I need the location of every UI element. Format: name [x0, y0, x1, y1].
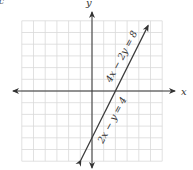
y-axis-label: y — [85, 0, 92, 8]
panel-label: c — [0, 0, 4, 6]
equation-line — [81, 25, 148, 160]
equation-label-upper: 4x − 2y = 8 — [103, 29, 140, 85]
graph: c x y 4x − 2y = 8 2x − y = 4 — [0, 0, 193, 170]
x-axis-label: x — [181, 86, 187, 97]
